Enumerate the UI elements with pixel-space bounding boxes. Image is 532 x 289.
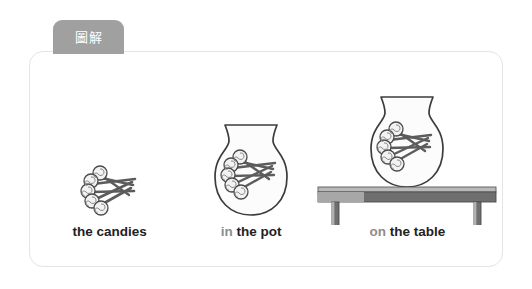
panel-label-pot-main: the pot <box>236 224 281 239</box>
diagram-tab-label: 圖解 <box>75 31 103 44</box>
table-illustration <box>314 93 500 225</box>
panel-label-table: on the table <box>370 225 446 239</box>
candies-illustration <box>75 93 145 225</box>
panel-label-candies: the candies <box>73 225 147 239</box>
diagram-tab[interactable]: 圖解 <box>53 20 124 54</box>
panel-label-pot-prep: in <box>221 224 233 239</box>
lollipop-bunch-icon <box>75 155 145 225</box>
pot-illustration <box>203 93 299 225</box>
panel-label-table-prep: on <box>370 224 387 239</box>
panels-row: the candies <box>30 52 502 266</box>
pot-with-lollipops-icon <box>203 119 299 225</box>
panel-table: on the table <box>313 52 502 266</box>
panel-label-table-main: the table <box>390 224 446 239</box>
diagram-card: the candies <box>29 51 503 267</box>
panel-candies: the candies <box>30 52 189 266</box>
pot-on-table-icon <box>314 93 500 225</box>
panel-pot: in the pot <box>189 52 312 266</box>
panel-label-pot: in the pot <box>221 225 282 239</box>
table-top <box>318 187 496 202</box>
panel-label-candies-main: the candies <box>73 224 147 239</box>
table-legs <box>332 202 481 225</box>
